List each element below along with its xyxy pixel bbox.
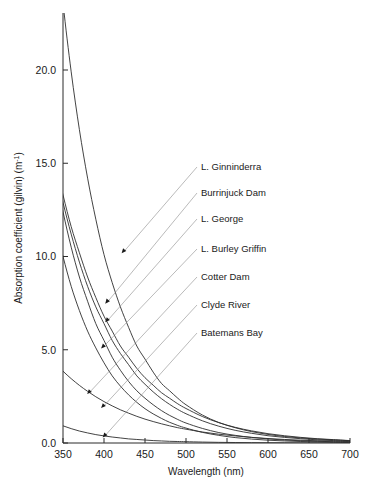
y-tick-label: 20.0: [36, 64, 57, 76]
y-tick-label: 5.0: [41, 344, 56, 356]
absorption-spectra-chart: 350400450500550600650700 0.05.010.015.02…: [0, 0, 368, 489]
figure-container: 350400450500550600650700 0.05.010.015.02…: [0, 0, 368, 489]
y-axis-title-suffix: ): [13, 152, 24, 155]
series-label: L. Burley Griffin: [201, 243, 266, 254]
y-axis-title: Absorption coefficient (gilvin) (m-1): [13, 152, 25, 304]
series-labels-group: L. GinninderraBurrinjuck DamL. GeorgeL. …: [201, 161, 266, 338]
leader-arrowhead: [122, 248, 127, 253]
x-tick-label: 600: [259, 448, 277, 460]
x-tick-label: 700: [341, 448, 359, 460]
series-label: Clyde River: [201, 299, 250, 310]
leader-line: [107, 193, 197, 303]
x-tick-label: 650: [300, 448, 318, 460]
series-curve: [55, 363, 350, 442]
leader-lines-group: [87, 167, 197, 437]
leader-arrowhead: [105, 299, 110, 304]
x-tick-label: 500: [177, 448, 195, 460]
series-label: L. George: [201, 213, 243, 224]
series-label: Cotter Dam: [201, 271, 250, 282]
leader-arrowhead: [101, 344, 106, 349]
series-label: Batemans Bay: [201, 327, 263, 338]
leader-arrowhead: [101, 403, 106, 408]
axes-group: [63, 13, 350, 443]
leader-line: [107, 219, 197, 321]
series-label: L. Ginninderra: [201, 161, 262, 172]
y-tick-label: 15.0: [36, 157, 57, 169]
leader-line: [123, 167, 197, 252]
x-tick-label: 550: [218, 448, 236, 460]
y-axis-title-group: Absorption coefficient (gilvin) (m-1): [13, 152, 25, 304]
x-tick-label: 350: [54, 448, 72, 460]
x-tick-label: 450: [136, 448, 154, 460]
leader-line: [103, 305, 197, 407]
x-axis-title: Wavelength (nm): [168, 466, 244, 477]
y-tick-label: 10.0: [36, 250, 57, 262]
x-tick-label: 400: [95, 448, 113, 460]
series-label: Burrinjuck Dam: [201, 187, 266, 198]
y-tick-label: 0.0: [41, 437, 56, 449]
y-axis-title-main: Absorption coefficient (gilvin) (m: [13, 162, 24, 304]
